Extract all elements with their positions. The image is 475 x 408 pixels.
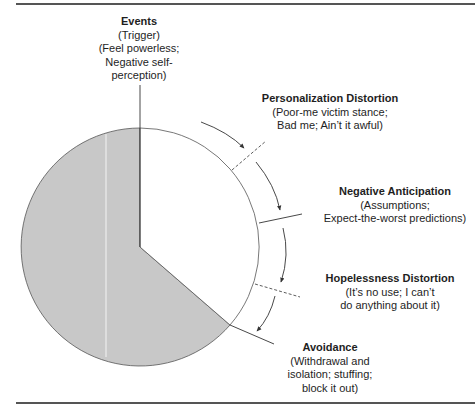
stage-desc-line: Negative self- <box>93 56 185 70</box>
stage-personalization-distortion: Personalization Distortion (Poor-me vict… <box>245 92 415 133</box>
stage-desc-line: (Withdrawal and <box>275 355 385 369</box>
stage-desc-line: Expect-the-worst predictions) <box>315 212 475 226</box>
stage-events: Events (Trigger) (Feel powerless; Negati… <box>93 15 185 83</box>
stage-desc-line: (Feel powerless; <box>93 42 185 56</box>
stage-title: Events <box>93 15 185 29</box>
stage-desc-line: block it out) <box>275 382 385 396</box>
stage-desc-line: (Assumptions; <box>315 199 475 213</box>
stage-avoidance: Avoidance (Withdrawal and isolation; stu… <box>275 341 385 395</box>
stage-title: Avoidance <box>275 341 385 355</box>
stage-desc-line: do anything about it) <box>320 299 460 313</box>
stage-desc-line: Bad me; Ain’t it awful) <box>245 119 415 133</box>
stage-desc-line: (It’s no use; I can’t <box>320 286 460 300</box>
stage-hopelessness-distortion: Hopelessness Distortion (It’s no use; I … <box>320 272 460 313</box>
stage-title: Hopelessness Distortion <box>320 272 460 286</box>
stage-desc-line: isolation; stuffing; <box>275 368 385 382</box>
stage-desc-line: perception) <box>93 69 185 83</box>
stage-desc-line: (Poor-me victim stance; <box>245 106 415 120</box>
stage-title: Negative Anticipation <box>315 185 475 199</box>
stage-negative-anticipation: Negative Anticipation (Assumptions; Expe… <box>315 185 475 226</box>
stage-title: Personalization Distortion <box>245 92 415 106</box>
stage-desc-line: (Trigger) <box>93 29 185 43</box>
